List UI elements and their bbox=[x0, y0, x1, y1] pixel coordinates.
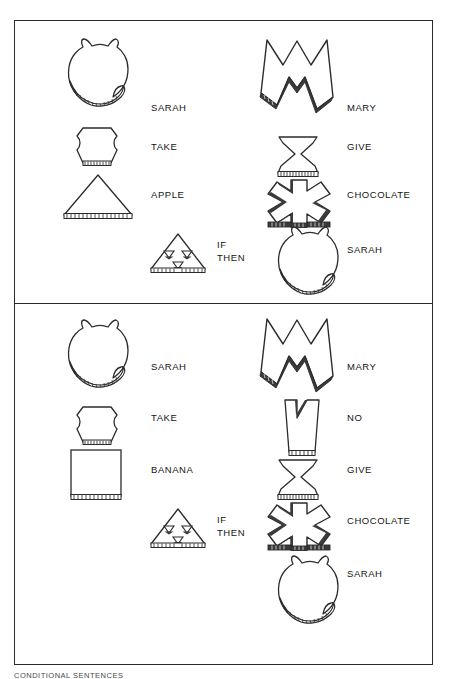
label-banana: BANANA bbox=[151, 464, 193, 475]
label-apple: APPLE bbox=[151, 189, 184, 200]
sarah-cat-shape bbox=[61, 35, 133, 117]
banana-square-shape bbox=[65, 446, 131, 504]
label-if: IF bbox=[217, 239, 245, 252]
if-then-triangle-shape bbox=[147, 231, 209, 277]
take-hourglass-lobed-shape bbox=[73, 125, 123, 170]
take-hourglass-lobed-shape bbox=[73, 404, 123, 449]
label-sarah-2: SARAH bbox=[347, 244, 382, 255]
label-if-then: IF THEN bbox=[217, 514, 245, 539]
label-take: TAKE bbox=[151, 141, 177, 152]
label-give: GIVE bbox=[347, 464, 372, 475]
label-sarah-2: SARAH bbox=[347, 568, 382, 579]
label-give: GIVE bbox=[347, 141, 372, 152]
label-sarah: SARAH bbox=[151, 102, 186, 113]
give-bowtie-shape bbox=[273, 456, 323, 502]
label-chocolate: CHOCOLATE bbox=[347, 515, 410, 526]
sarah-cat-shape bbox=[271, 552, 343, 634]
give-bowtie-shape bbox=[273, 133, 323, 179]
label-then: THEN bbox=[217, 527, 245, 540]
label-sarah: SARAH bbox=[151, 361, 186, 372]
label-mary: MARY bbox=[347, 361, 376, 372]
label-no: NO bbox=[347, 412, 362, 423]
sarah-cat-shape bbox=[61, 316, 133, 398]
figure-caption: CONDITIONAL SENTENCES bbox=[14, 671, 123, 679]
label-mary: MARY bbox=[347, 102, 376, 113]
figure-root: SARAH TAKE bbox=[0, 0, 450, 679]
label-if: IF bbox=[217, 514, 245, 527]
no-cup-shape bbox=[277, 396, 327, 462]
apple-triangle-shape bbox=[59, 171, 137, 223]
chocolate-asterisk-shape bbox=[265, 177, 333, 229]
sarah-cat-shape bbox=[271, 223, 343, 305]
mary-m-shape bbox=[255, 314, 339, 402]
label-if-then: IF THEN bbox=[217, 239, 245, 264]
mary-m-shape bbox=[255, 35, 339, 123]
label-take: TAKE bbox=[151, 412, 177, 423]
if-then-triangle-shape bbox=[147, 506, 209, 552]
panel-sarah-take-apple: SARAH TAKE bbox=[14, 20, 433, 304]
panel-sarah-take-banana: SARAH TAKE bbox=[14, 303, 433, 665]
chocolate-asterisk-shape bbox=[265, 500, 333, 552]
label-then: THEN bbox=[217, 252, 245, 265]
label-chocolate: CHOCOLATE bbox=[347, 189, 410, 200]
